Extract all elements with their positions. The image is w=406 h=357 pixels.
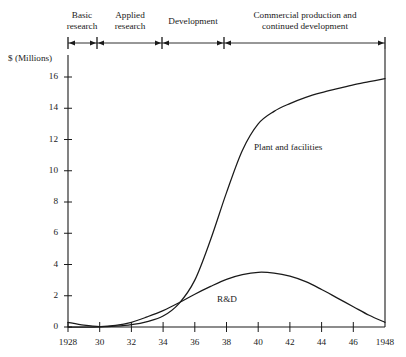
phase-label-4: Commercial production and continued deve…: [235, 10, 375, 31]
y-tick-label-8: 8: [24, 196, 58, 206]
plant-and-facilities-label: Plant and facilities: [254, 142, 322, 152]
y-axis-title: $ (Millions): [8, 53, 52, 63]
chart-figure: Basic researchApplied researchDevelopmen…: [0, 0, 406, 357]
y-tick-label-6: 6: [24, 227, 58, 237]
y-tick-label-4: 4: [24, 259, 58, 269]
y-tick-label-16: 16: [24, 71, 58, 81]
y-tick-label-12: 12: [24, 134, 58, 144]
y-tick-label-0: 0: [24, 321, 58, 331]
series-line-plant-and-facilities: [68, 79, 385, 327]
y-tick-label-2: 2: [24, 290, 58, 300]
chart-axes: [64, 49, 385, 332]
data-series-group: [68, 79, 385, 327]
phase-timeline-axis: [68, 37, 385, 49]
x-tick-label-1948: 1948: [365, 337, 405, 347]
rd-label: R&D: [217, 294, 237, 304]
chart-canvas: [0, 0, 406, 357]
y-tick-label-14: 14: [24, 102, 58, 112]
y-tick-label-10: 10: [24, 165, 58, 175]
